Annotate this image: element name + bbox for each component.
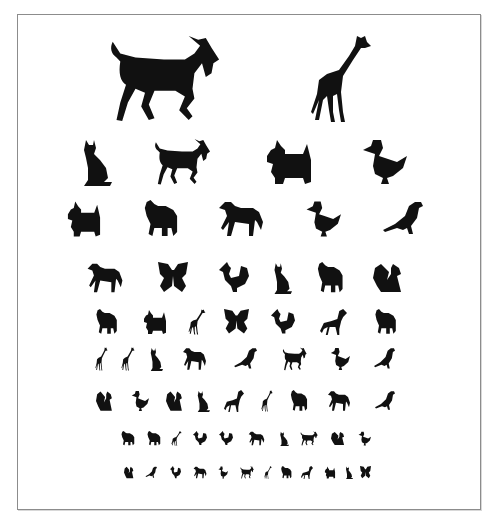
duck-icon (361, 138, 407, 186)
giraffe-icon (261, 390, 273, 412)
squirrel-icon (96, 390, 113, 412)
duck-icon (305, 200, 341, 238)
horse-icon (248, 431, 265, 446)
duck-icon (330, 347, 350, 371)
elephant-icon (94, 309, 118, 335)
bird-icon (233, 347, 257, 371)
squirrel-icon (331, 431, 345, 446)
giraffe-icon (309, 34, 373, 124)
chart-row-6 (0, 347, 499, 371)
rooster-icon (219, 262, 249, 294)
cat-icon (345, 466, 353, 479)
cat-icon (80, 138, 112, 186)
squirrel-icon (124, 466, 134, 479)
bird-icon (374, 390, 395, 412)
bird-icon (145, 466, 157, 479)
chart-row-7 (0, 390, 499, 412)
goat-icon (240, 466, 254, 479)
giraffe-icon (121, 347, 135, 371)
squirrel-icon (373, 262, 403, 294)
cat-icon (196, 390, 210, 412)
cat-icon (279, 431, 289, 446)
elephant-icon (315, 262, 344, 294)
goat-icon (153, 138, 211, 186)
rooster-icon (170, 466, 181, 479)
elephant-icon (141, 200, 179, 238)
chart-row-8 (0, 431, 499, 446)
bird-icon (373, 347, 395, 371)
elephant-icon (146, 431, 161, 446)
squirrel-icon (166, 390, 183, 412)
goat-icon (282, 347, 307, 371)
elephant-icon (120, 431, 135, 446)
butterfly-icon (224, 309, 249, 335)
dog-icon (301, 466, 313, 479)
rooster-icon (271, 309, 295, 335)
horse-icon (327, 390, 351, 412)
elephant-icon (289, 390, 308, 412)
chart-row-5 (0, 309, 499, 335)
butterfly-icon (360, 466, 371, 479)
chart-row-9 (0, 466, 499, 479)
scottie-icon (263, 138, 315, 186)
rooster-icon (193, 431, 207, 446)
scottie-icon (324, 466, 336, 479)
cat-icon (149, 347, 163, 371)
chart-row-1 (0, 34, 499, 124)
horse-icon (217, 200, 265, 238)
elephant-icon (280, 466, 292, 479)
horse-icon (193, 466, 207, 479)
goat-icon (107, 34, 221, 124)
chart-row-4 (0, 262, 499, 294)
bird-icon (381, 200, 423, 238)
giraffe-icon (264, 466, 272, 479)
scottie-icon (65, 200, 103, 238)
duck-icon (218, 466, 228, 479)
butterfly-icon (158, 262, 188, 294)
duck-icon (358, 431, 371, 446)
duck-icon (131, 390, 149, 412)
chart-row-3 (0, 200, 499, 238)
cat-icon (272, 262, 292, 294)
chart-row-2 (0, 138, 499, 186)
elephant-icon (373, 309, 397, 335)
dog-icon (320, 309, 347, 335)
giraffe-icon (188, 309, 206, 335)
goat-icon (300, 431, 318, 446)
rooster-icon (219, 431, 233, 446)
giraffe-icon (171, 431, 182, 446)
chart-title: Animal picture eye chart (18, 15, 19, 16)
dog-icon (224, 390, 244, 412)
scottie-icon (142, 309, 168, 335)
giraffe-icon (95, 347, 108, 371)
horse-icon (86, 262, 124, 294)
horse-icon (182, 347, 207, 371)
